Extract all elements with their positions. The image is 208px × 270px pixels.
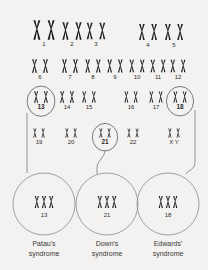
- chromosome-glyph: [127, 129, 130, 138]
- chromosome-glyph: [177, 24, 183, 40]
- syndrome-caption-line2: syndrome: [153, 250, 184, 258]
- chromosome-pair-X-Y[interactable]: X Y: [168, 129, 180, 145]
- chromosome-glyph: [139, 24, 145, 40]
- chromosome-glyph: [124, 92, 128, 103]
- pair-label: 6: [38, 74, 42, 80]
- chromosome-pair-6[interactable]: 6: [32, 59, 48, 80]
- trisomy-18[interactable]: 18Edwards'syndrome: [137, 173, 199, 258]
- chromosome-glyph: [134, 92, 138, 103]
- chromosome-glyph: [149, 92, 153, 103]
- connector-line-3: [186, 110, 195, 174]
- chromosome-glyph: [130, 60, 135, 73]
- chromosome-glyph: [44, 91, 48, 103]
- connector-line-2: [97, 150, 105, 174]
- pair-label: 18: [176, 103, 184, 110]
- chromosome-pair-7[interactable]: 7: [62, 59, 78, 80]
- chromosome-glyph: [99, 23, 105, 40]
- pair-label: 13: [37, 103, 45, 110]
- chromosome-pair-20[interactable]: 20: [65, 129, 77, 145]
- karyotype-row-1: 12345: [33, 20, 183, 47]
- chromosome-pair-16[interactable]: 16: [124, 92, 137, 110]
- trisomy-13[interactable]: 13Patau'ssyndrome: [13, 173, 75, 258]
- chromosome-glyph: [107, 60, 112, 73]
- chromosome-glyph: [159, 92, 163, 103]
- chromosome-glyph: [49, 196, 53, 208]
- chromosome-pair-13[interactable]: 13: [27, 86, 55, 116]
- chromosome-pair-10[interactable]: 10: [130, 60, 145, 80]
- chromosome-pair-9[interactable]: 9: [107, 60, 122, 81]
- chromosome-glyph: [181, 60, 186, 73]
- chromosome-glyph: [112, 196, 116, 208]
- chromosome-pair-8[interactable]: 8: [85, 60, 100, 81]
- pair-label: 15: [86, 104, 93, 110]
- chromosome-glyph: [73, 59, 78, 73]
- trisomy-circles: 13Patau'ssyndrome21Down'ssyndrome18Edwar…: [13, 173, 199, 258]
- pair-label: 21: [101, 138, 109, 145]
- chromosome-glyph: [33, 20, 40, 39]
- chromosome-glyph: [43, 59, 48, 73]
- chromosome-pair-5[interactable]: 5: [165, 24, 183, 47]
- chromosome-glyph: [33, 129, 36, 138]
- pair-label: 22: [130, 139, 137, 145]
- chromosome-pair-1[interactable]: 1: [33, 20, 54, 47]
- chromosome-glyph: [62, 59, 67, 73]
- chromosome-glyph: [118, 60, 123, 73]
- chromosome-glyph: [62, 22, 68, 39]
- pair-label: 12: [175, 74, 182, 80]
- chromosome-glyph: [173, 92, 177, 103]
- pair-label: 11: [155, 74, 162, 80]
- pair-label: 9: [113, 74, 117, 80]
- trisomy-circle: [76, 173, 138, 235]
- chromosome-pair-14[interactable]: 14: [60, 91, 74, 110]
- chromosome-pair-4[interactable]: 4: [139, 24, 157, 47]
- chromosome-pair-15[interactable]: 15: [82, 91, 96, 110]
- chromosome-pair-11[interactable]: 11: [151, 60, 166, 80]
- chromosome-pair-22[interactable]: 22: [127, 129, 138, 145]
- pair-label: 1: [42, 41, 46, 47]
- karyotype-figure: 12345678910111213141516171819202122X Y 1…: [0, 0, 208, 270]
- chromosome-glyph: [65, 129, 68, 138]
- chromosome-glyph: [96, 60, 101, 73]
- chromosome-glyph: [105, 196, 109, 208]
- highlight-circle-18: [166, 86, 193, 116]
- syndrome-caption-line1: Down's: [96, 240, 119, 247]
- trisomy-chromosome-label: 13: [41, 212, 48, 218]
- chromosome-pair-12[interactable]: 12: [171, 60, 186, 80]
- pair-label: 3: [94, 41, 98, 47]
- chromosome-pair-19[interactable]: 19: [33, 129, 45, 145]
- syndrome-caption-line1: Patau's: [32, 240, 56, 247]
- chromosome-glyph: [42, 196, 46, 208]
- chromosome-glyph: [168, 129, 171, 138]
- pair-label: 8: [91, 74, 95, 80]
- chromosome-glyph: [82, 91, 86, 102]
- trisomy-chromosome-label: 18: [165, 212, 172, 218]
- chromosome-glyph: [60, 91, 64, 103]
- trisomy-circle: [13, 173, 75, 235]
- chromosome-glyph: [99, 129, 102, 138]
- chromosome-glyph: [177, 129, 180, 138]
- pair-label: 7: [68, 74, 72, 80]
- chromosome-pair-3[interactable]: 3: [87, 23, 106, 47]
- chromosome-pair-17[interactable]: 17: [149, 92, 162, 110]
- karyotype-row-2: 6789101112: [32, 59, 185, 80]
- chromosome-pair-2[interactable]: 2: [62, 22, 81, 47]
- karyotype-row-4: 19202122X Y: [33, 123, 180, 151]
- chromosome-glyph: [183, 92, 187, 103]
- chromosome-glyph: [32, 59, 37, 73]
- pair-label: 4: [146, 42, 150, 48]
- karyotype-rows: 12345678910111213141516171819202122X Y: [27, 20, 193, 151]
- chromosome-glyph: [75, 22, 81, 39]
- karyotype-svg: 12345678910111213141516171819202122X Y 1…: [0, 0, 208, 270]
- syndrome-caption-line1: Edwards': [154, 240, 183, 247]
- chromosome-glyph: [171, 60, 176, 73]
- syndrome-caption-line2: syndrome: [92, 250, 123, 258]
- chromosome-glyph: [159, 196, 163, 208]
- trisomy-chromosome-label: 21: [104, 212, 111, 218]
- chromosome-glyph: [140, 60, 145, 73]
- pair-label: 16: [128, 104, 135, 110]
- chromosome-glyph: [34, 91, 38, 103]
- trisomy-21[interactable]: 21Down'ssyndrome: [76, 173, 138, 258]
- chromosome-pair-18[interactable]: 18: [166, 86, 193, 116]
- chromosome-pair-21[interactable]: 21: [92, 123, 117, 151]
- chromosome-glyph: [42, 129, 45, 138]
